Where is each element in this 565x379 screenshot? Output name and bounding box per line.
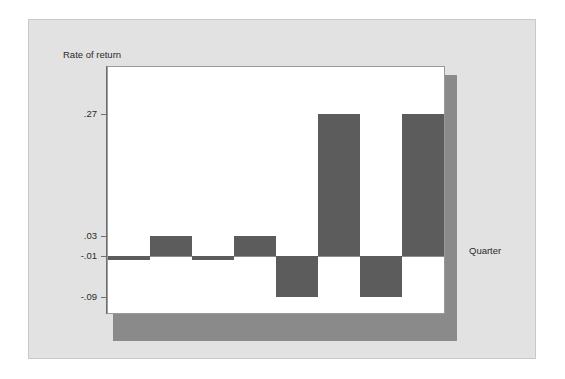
x-axis-title: Quarter [469,246,501,256]
y-tick-label: -.09 [81,292,97,302]
y-axis-spine [106,66,107,314]
bar [318,114,360,256]
y-tick-mark [101,297,106,298]
y-tick-label: .27 [84,109,97,119]
bar [276,256,318,297]
bar [234,236,276,256]
bar [360,256,402,297]
bar [108,256,150,260]
bar [192,256,234,260]
y-tick-mark [101,256,106,257]
y-tick-label: .03 [84,231,97,241]
y-axis-title: Rate of return [63,50,121,60]
y-tick-label: -.01 [81,251,97,261]
bar [402,114,444,256]
plot-card [107,66,445,314]
y-tick-mark [101,114,106,115]
bar [150,236,192,256]
figure-panel: Rate of return Quarter .27.03-.01-.09 [28,19,536,359]
y-tick-mark [101,236,106,237]
plot-surface [108,67,444,313]
